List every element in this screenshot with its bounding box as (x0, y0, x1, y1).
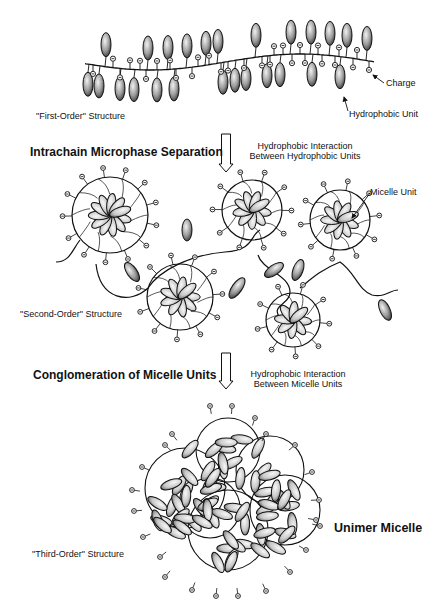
charge-icon (301, 282, 306, 287)
charge-icon (173, 75, 178, 80)
charge-icon (321, 297, 326, 302)
charge-icon (298, 222, 303, 227)
charge-icon (153, 200, 158, 205)
charge-icon (262, 170, 267, 175)
hydrophobic-unit-icon (179, 438, 200, 460)
diagram-canvas: "First-Order" Structure Charge Hydrophob… (0, 0, 444, 614)
charge-icon (152, 329, 157, 334)
charge-icon (319, 61, 324, 66)
charge-icon (310, 470, 315, 475)
charge-icon (309, 244, 314, 249)
charge-icon (210, 207, 215, 212)
hydrophobic-unit-icon (251, 23, 261, 47)
first-order-chain (83, 20, 374, 102)
charge-icon (170, 432, 175, 437)
charge-icon (237, 245, 242, 250)
charge-icon (212, 269, 217, 274)
charge-icon (195, 55, 200, 60)
hydrophobic-unit-icon (342, 23, 352, 47)
hydrophobic-unit-callout-label: Hydrophobic Unit (349, 110, 418, 120)
micelle-unit-callout-label: Micelle Unit (370, 188, 417, 198)
hydrophobic-unit-icon (209, 551, 227, 575)
hydrophobic-unit-icon (362, 26, 372, 50)
charge-icon (218, 184, 223, 189)
charge-icon (141, 535, 146, 540)
charge-icon (167, 58, 172, 63)
charge-icon (80, 174, 85, 179)
charge-icon (302, 60, 307, 65)
charge-icon (377, 213, 382, 218)
hydrophobic-unit-icon (101, 33, 111, 57)
charge-icon (264, 432, 269, 437)
charge-icon (208, 404, 213, 409)
charge-icon (366, 67, 371, 72)
hydrophobic-unit-icon (122, 260, 143, 284)
hydrophobic-unit-icon (275, 63, 285, 87)
charge-icon (354, 254, 359, 259)
transition-1-mechanism: Hydrophobic Interaction Between Hydropho… (245, 142, 365, 162)
charge-icon (136, 286, 141, 291)
hydrophobic-unit-icon (335, 65, 345, 89)
charge-icon (255, 327, 260, 332)
charge-icon (258, 302, 263, 307)
charge-icon (175, 337, 180, 342)
charge-icon (60, 214, 65, 219)
charge-icon (189, 74, 194, 79)
charge-icon (217, 230, 222, 235)
charge-icon (316, 344, 321, 349)
charge-icon (198, 332, 203, 337)
first-order-label: "First-Order" Structure (36, 112, 125, 122)
charge-icon (264, 589, 269, 594)
transition-1-mechanism-line2: Between Hydrophobic Units (245, 152, 365, 162)
down-arrow-icon (219, 353, 233, 389)
charge-icon (345, 179, 350, 184)
hydrophobic-unit-icon (143, 36, 153, 60)
charge-icon (123, 168, 128, 173)
charge-icon (192, 255, 197, 260)
charge-callout-label: Charge (386, 79, 416, 89)
charge-icon (321, 182, 326, 187)
charge-icon (304, 548, 309, 553)
charge-icon (206, 53, 211, 58)
charge-icon (163, 443, 168, 448)
charge-icon (269, 347, 274, 352)
charge-icon (126, 257, 131, 262)
charge-icon (82, 252, 87, 257)
charge-icon (314, 518, 319, 523)
hydrophobic-unit-icon (213, 29, 223, 53)
charge-icon (154, 58, 159, 63)
charge-icon (289, 61, 294, 66)
charge-icon (293, 354, 298, 359)
charge-icon (271, 44, 276, 49)
charge-icon (288, 570, 293, 575)
third-order-label: "Third-Order" Structure (32, 550, 124, 560)
hydrophobic-unit-icon (376, 298, 394, 322)
transition-1-process: Intrachain Microphase Separation (30, 146, 223, 159)
charge-icon (317, 498, 322, 503)
second-order-micelles (56, 166, 398, 359)
charge-icon (327, 321, 332, 326)
charge-icon (332, 62, 337, 67)
charge-icon (158, 555, 163, 560)
hydrophobic-unit-icon (215, 438, 237, 447)
charge-icon (154, 223, 159, 228)
charge-icon (117, 75, 122, 80)
charge-icon (276, 284, 281, 289)
hydrophobic-unit-icon (182, 34, 192, 58)
charge-icon (137, 58, 142, 63)
transition-2-mechanism: Hydrophobic Interaction Between Micelle … (243, 370, 353, 390)
hydrophobic-unit-icon (226, 275, 248, 300)
charge-icon (214, 594, 219, 599)
charge-icon (282, 185, 287, 190)
charge-icon (330, 256, 335, 261)
hydrophobic-unit-icon (286, 20, 296, 44)
charge-icon (138, 309, 143, 314)
charge-icon (253, 416, 258, 421)
charge-icon (230, 404, 235, 409)
charge-icon (267, 62, 272, 67)
charge-icon (261, 245, 266, 250)
hydrophobic-unit-icon (201, 31, 211, 55)
charge-icon (259, 63, 264, 68)
charge-icon (169, 253, 174, 258)
unimer-micelle-label: Unimer Micelle (334, 522, 422, 536)
